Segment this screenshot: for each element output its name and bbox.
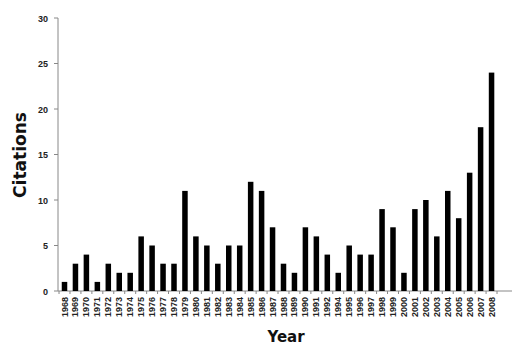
bar-1992 <box>325 255 331 291</box>
bar-1968 <box>62 282 68 291</box>
x-tick-label: 1983 <box>224 297 234 317</box>
bar-1994 <box>336 273 342 291</box>
x-tick-label: 2003 <box>432 297 442 317</box>
x-tick-label: 1991 <box>311 297 321 317</box>
x-tick-label: 2000 <box>399 297 409 317</box>
x-tick-label: 1994 <box>333 297 343 317</box>
bar-1970 <box>84 255 90 291</box>
x-tick-label: 1975 <box>136 297 146 317</box>
bar-1976 <box>149 246 155 292</box>
x-tick-label: 1968 <box>60 297 70 317</box>
y-axis-title: Citations <box>10 112 30 198</box>
y-axis: 051015202530 <box>38 14 58 297</box>
y-tick-label: 10 <box>38 196 48 206</box>
y-tick-label: 30 <box>38 14 48 24</box>
bar-1978 <box>171 264 177 291</box>
x-tick-label: 1989 <box>289 297 299 317</box>
y-tick-label: 20 <box>38 105 48 115</box>
bar-2000 <box>401 273 407 291</box>
bar-2006 <box>467 173 473 291</box>
bar-1991 <box>314 236 320 291</box>
y-tick-label: 5 <box>43 241 48 251</box>
x-tick-label: 2002 <box>421 297 431 317</box>
x-tick-label: 1992 <box>322 297 332 317</box>
bar-1979 <box>182 191 188 291</box>
bar-1975 <box>138 236 144 291</box>
x-tick-label: 2004 <box>443 297 453 317</box>
y-tick-label: 0 <box>43 287 48 297</box>
x-tick-label: 1981 <box>202 297 212 317</box>
x-tick-label: 1988 <box>279 297 289 317</box>
x-tick-label: 1978 <box>169 297 179 317</box>
x-tick-label: 1985 <box>246 297 256 317</box>
bar-1973 <box>117 273 123 291</box>
bar-1995 <box>346 246 352 292</box>
x-tick-label: 2008 <box>487 297 497 317</box>
y-tick-label: 15 <box>38 150 48 160</box>
x-tick-label: 1995 <box>344 297 354 317</box>
bar-2007 <box>478 127 484 291</box>
x-tick-label: 1976 <box>147 297 157 317</box>
bar-2001 <box>412 209 418 291</box>
bars <box>62 73 495 291</box>
bar-1969 <box>73 264 79 291</box>
bar-1997 <box>368 255 374 291</box>
bar-1987 <box>270 227 276 291</box>
bar-1998 <box>379 209 385 291</box>
x-tick-label: 1970 <box>81 297 91 317</box>
bar-1972 <box>106 264 112 291</box>
x-tick-label: 1972 <box>103 297 113 317</box>
bar-1981 <box>204 246 210 292</box>
x-tick-label: 1986 <box>257 297 267 317</box>
x-tick-label: 2001 <box>410 297 420 317</box>
x-tick-label: 1987 <box>268 297 278 317</box>
x-tick-label: 1979 <box>180 297 190 317</box>
x-tick-label: 1980 <box>191 297 201 317</box>
bar-2004 <box>445 191 451 291</box>
y-tick-label: 25 <box>38 59 48 69</box>
x-tick-label: 1974 <box>125 297 135 317</box>
x-tick-label: 1984 <box>235 297 245 317</box>
bar-1985 <box>248 182 254 291</box>
x-tick-label: 1997 <box>366 297 376 317</box>
bar-2008 <box>489 73 495 291</box>
x-tick-label: 2005 <box>454 297 464 317</box>
x-tick-label: 1982 <box>213 297 223 317</box>
x-tick-label: 2006 <box>465 297 475 317</box>
bar-1982 <box>215 264 221 291</box>
x-tick-label: 1971 <box>92 297 102 317</box>
x-tick-label: 1996 <box>355 297 365 317</box>
x-axis: 1968196919701971197219731974197519761977… <box>58 291 512 317</box>
bar-2003 <box>434 236 440 291</box>
bar-1977 <box>160 264 166 291</box>
x-tick-label: 2007 <box>476 297 486 317</box>
bar-1971 <box>95 282 101 291</box>
citations-bar-chart: 051015202530 196819691970197119721973197… <box>0 0 528 357</box>
x-tick-label: 1990 <box>300 297 310 317</box>
bar-1999 <box>390 227 396 291</box>
bar-1990 <box>303 227 309 291</box>
x-tick-label: 1977 <box>158 297 168 317</box>
bar-1974 <box>127 273 133 291</box>
x-tick-label: 1969 <box>70 297 80 317</box>
bar-1980 <box>193 236 199 291</box>
x-axis-title: Year <box>266 328 305 346</box>
x-tick-label: 1998 <box>377 297 387 317</box>
bar-2005 <box>456 218 462 291</box>
bar-1988 <box>281 264 287 291</box>
bar-1989 <box>292 273 298 291</box>
bar-1983 <box>226 246 232 292</box>
x-tick-label: 1973 <box>114 297 124 317</box>
bar-2002 <box>423 200 429 291</box>
x-tick-label: 1999 <box>388 297 398 317</box>
bar-1984 <box>237 246 243 292</box>
bar-1996 <box>357 255 363 291</box>
bar-1986 <box>259 191 265 291</box>
